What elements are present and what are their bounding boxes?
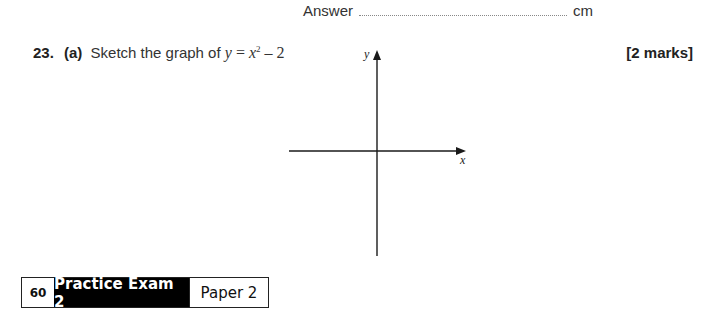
- page-number: 60: [22, 278, 54, 307]
- y-axis-label: y: [363, 47, 370, 61]
- page-footer: 60 Practice Exam 2 Paper 2: [21, 277, 269, 308]
- axes-sketch-area[interactable]: y x: [0, 0, 726, 320]
- exam-title: Practice Exam 2: [54, 278, 189, 307]
- x-axis-label: x: [459, 153, 466, 167]
- y-axis-arrow-icon: [373, 50, 381, 60]
- paper-label: Paper 2: [189, 278, 268, 307]
